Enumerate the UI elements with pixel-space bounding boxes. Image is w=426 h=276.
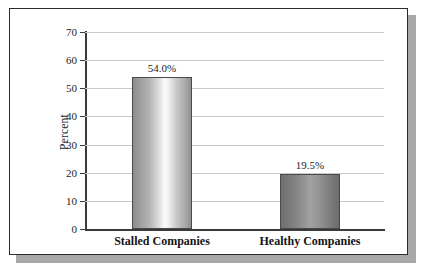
y-tick-label-40: 40: [66, 111, 77, 122]
y-tick-label-50: 50: [66, 83, 77, 94]
y-tick-label-60: 60: [66, 55, 77, 66]
gridline-30: 30: [85, 145, 384, 146]
y-tick-mark-50: [80, 88, 85, 89]
x-category-label-healthy: Healthy Companies: [259, 235, 360, 247]
y-tick-mark-0: [80, 229, 85, 230]
gridline-50: 50: [85, 88, 384, 89]
y-tick-label-0: 0: [72, 224, 78, 235]
y-tick-mark-20: [80, 173, 85, 174]
y-tick-label-20: 20: [66, 167, 77, 178]
y-tick-label-70: 70: [66, 27, 77, 38]
y-tick-mark-40: [80, 116, 85, 117]
x-category-label-stalled: Stalled Companies: [114, 235, 210, 247]
gridline-60: 60: [85, 60, 384, 61]
y-tick-mark-30: [80, 145, 85, 146]
y-tick-label-10: 10: [66, 195, 77, 206]
y-tick-label-30: 30: [66, 139, 77, 150]
gridline-0: 0: [85, 229, 384, 230]
y-tick-mark-10: [80, 201, 85, 202]
bar-stalled-companies[interactable]: 54.0% Stalled Companies: [132, 77, 192, 229]
plot-area: 70 60 50 40 30 20 10 0: [85, 32, 384, 229]
bar-healthy-companies[interactable]: 19.5% Healthy Companies: [280, 174, 340, 229]
gridline-70: 70: [85, 32, 384, 33]
bar-value-label-stalled: 54.0%: [148, 63, 176, 74]
chart-figure-frame: Percent 70 60 50 40 30 20 1: [9, 8, 408, 255]
gridline-40: 40: [85, 116, 384, 117]
bar-value-label-healthy: 19.5%: [296, 160, 324, 171]
y-tick-mark-70: [80, 32, 85, 33]
y-tick-mark-60: [80, 60, 85, 61]
